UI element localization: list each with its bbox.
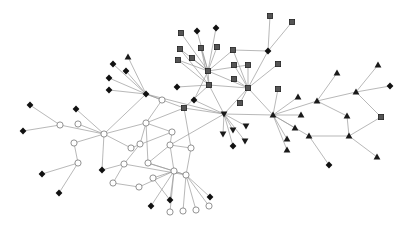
circle-node-icon bbox=[167, 142, 173, 148]
graph-edge bbox=[183, 175, 186, 211]
graph-edge bbox=[356, 86, 390, 92]
diamond-node-icon bbox=[148, 203, 155, 210]
graph-edge bbox=[248, 64, 278, 88]
circle-node-icon bbox=[180, 208, 186, 214]
square-node-icon bbox=[275, 61, 280, 66]
square-node-icon bbox=[231, 76, 236, 81]
graph-edge bbox=[273, 115, 287, 139]
graph-edge bbox=[60, 125, 104, 134]
graph-edge bbox=[186, 175, 209, 206]
diamond-node-icon bbox=[27, 102, 34, 109]
circle-node-icon bbox=[136, 184, 142, 190]
square-node-icon bbox=[245, 85, 250, 90]
circle-node-icon bbox=[193, 207, 199, 213]
circle-node-icon bbox=[71, 140, 77, 146]
triangle-node-icon bbox=[295, 94, 302, 100]
graph-edge bbox=[224, 88, 248, 114]
square-node-icon bbox=[230, 47, 235, 52]
circle-node-icon bbox=[145, 160, 151, 166]
circle-node-icon bbox=[57, 122, 63, 128]
graph-edge bbox=[104, 134, 131, 148]
square-node-icon bbox=[189, 55, 194, 60]
graph-edge bbox=[109, 78, 146, 94]
graph-edge bbox=[170, 114, 224, 145]
graph-edge bbox=[102, 134, 104, 170]
triangle-down-node-icon bbox=[230, 127, 237, 133]
graph-edge bbox=[42, 163, 78, 174]
graph-edge bbox=[273, 115, 309, 136]
circle-node-icon bbox=[159, 97, 165, 103]
square-node-icon bbox=[237, 100, 242, 105]
graph-nodes bbox=[20, 13, 394, 215]
graph-edge bbox=[170, 145, 174, 171]
graph-edge bbox=[273, 115, 287, 150]
diamond-node-icon bbox=[326, 162, 333, 169]
graph-edges bbox=[23, 16, 390, 212]
graph-edge bbox=[170, 171, 174, 212]
graph-edge bbox=[186, 148, 191, 175]
circle-node-icon bbox=[137, 141, 143, 147]
triangle-node-icon bbox=[334, 70, 341, 76]
triangle-node-icon bbox=[298, 112, 305, 118]
square-node-icon bbox=[206, 82, 211, 87]
graph-edge bbox=[148, 145, 170, 163]
circle-node-icon bbox=[150, 175, 156, 181]
circle-node-icon bbox=[128, 145, 134, 151]
square-node-icon bbox=[177, 46, 182, 51]
circle-node-icon bbox=[101, 131, 107, 137]
square-node-icon bbox=[267, 13, 272, 18]
graph-edge bbox=[349, 117, 381, 136]
square-node-icon bbox=[245, 62, 250, 67]
circle-node-icon bbox=[206, 203, 212, 209]
square-node-icon bbox=[214, 44, 219, 49]
graph-edge bbox=[317, 101, 347, 116]
triangle-node-icon bbox=[344, 113, 351, 119]
graph-edge bbox=[59, 163, 78, 193]
graph-edge bbox=[126, 71, 146, 94]
triangle-node-icon bbox=[292, 125, 299, 131]
diamond-node-icon bbox=[194, 28, 201, 35]
diamond-node-icon bbox=[230, 143, 237, 150]
graph-edge bbox=[109, 90, 146, 94]
circle-node-icon bbox=[171, 168, 177, 174]
circle-node-icon bbox=[75, 121, 81, 127]
diamond-node-icon bbox=[20, 128, 27, 135]
graph-edge bbox=[104, 123, 146, 134]
square-node-icon bbox=[378, 114, 383, 119]
graph-edge bbox=[309, 136, 329, 165]
diamond-node-icon bbox=[106, 87, 113, 94]
graph-edge bbox=[347, 116, 349, 136]
graph-edge bbox=[184, 85, 209, 108]
circle-node-icon bbox=[188, 145, 194, 151]
diamond-node-icon bbox=[213, 25, 220, 32]
triangle-down-node-icon bbox=[243, 123, 250, 129]
graph-edge bbox=[356, 92, 381, 117]
graph-edge bbox=[128, 57, 146, 94]
graph-edge bbox=[356, 65, 378, 92]
circle-node-icon bbox=[110, 180, 116, 186]
square-node-icon bbox=[231, 62, 236, 67]
graph-edge bbox=[273, 97, 298, 115]
graph-edge bbox=[146, 123, 148, 163]
graph-edge bbox=[30, 105, 60, 125]
graph-edge bbox=[273, 89, 278, 115]
triangle-node-icon bbox=[125, 54, 132, 60]
graph-edge bbox=[268, 16, 270, 51]
circle-node-icon bbox=[167, 209, 173, 215]
square-node-icon bbox=[175, 57, 180, 62]
circle-node-icon bbox=[75, 160, 81, 166]
graph-edge bbox=[113, 64, 146, 94]
graph-edge bbox=[74, 134, 104, 143]
graph-edge bbox=[233, 50, 268, 51]
diamond-node-icon bbox=[167, 197, 174, 204]
triangle-node-icon bbox=[374, 154, 381, 160]
diamond-node-icon bbox=[39, 171, 46, 178]
square-node-icon bbox=[198, 45, 203, 50]
graph-edge bbox=[184, 108, 191, 148]
diamond-node-icon bbox=[99, 167, 106, 174]
triangle-node-icon bbox=[306, 133, 313, 139]
diamond-node-icon bbox=[387, 83, 394, 90]
diamond-node-icon bbox=[191, 97, 198, 104]
triangle-node-icon bbox=[284, 147, 291, 153]
graph-edge bbox=[113, 183, 139, 187]
